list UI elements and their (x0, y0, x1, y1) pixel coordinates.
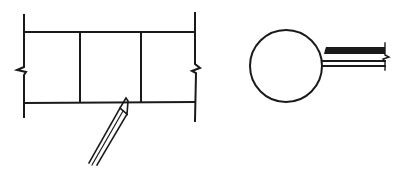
diagram-canvas (0, 0, 400, 179)
right-post (192, 13, 200, 121)
wall-section-figure (17, 13, 200, 165)
pencil-icon (89, 98, 128, 165)
round-shape (250, 30, 322, 102)
left-post (17, 15, 26, 117)
bottom-rail (25, 102, 195, 103)
stem-upper (324, 47, 385, 54)
round-with-stem-figure (250, 30, 389, 102)
